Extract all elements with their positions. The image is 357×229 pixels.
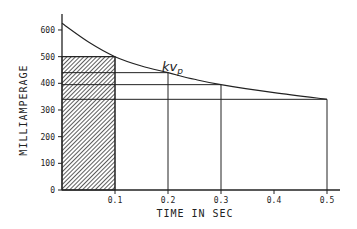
y-tick-label: 500 <box>41 53 56 62</box>
x-tick-label: 0.5 <box>320 196 335 205</box>
shaded-region <box>62 57 115 190</box>
y-tick-label: 400 <box>41 79 56 88</box>
x-tick-label: 0.2 <box>161 196 176 205</box>
y-tick-label: 100 <box>41 159 56 168</box>
y-tick-label: 200 <box>41 133 56 142</box>
chart: 01002003004005006000.10.20.30.40.5 TIME … <box>0 0 357 229</box>
x-tick-label: 0.3 <box>214 196 229 205</box>
annotation-main: kv <box>162 59 178 74</box>
x-tick-label: 0.4 <box>267 196 282 205</box>
y-tick-label: 600 <box>41 26 56 35</box>
kvp-annotation: kvp <box>162 59 183 76</box>
y-tick-label: 0 <box>50 186 55 195</box>
x-axis-label: TIME IN SEC <box>156 208 233 219</box>
x-tick-label: 0.1 <box>108 196 123 205</box>
y-tick-label: 300 <box>41 106 56 115</box>
plot-area: 01002003004005006000.10.20.30.40.5 <box>41 14 340 205</box>
annotation-sub: p <box>176 66 183 76</box>
y-axis-label: MILLIAMPERAGE <box>18 64 29 155</box>
